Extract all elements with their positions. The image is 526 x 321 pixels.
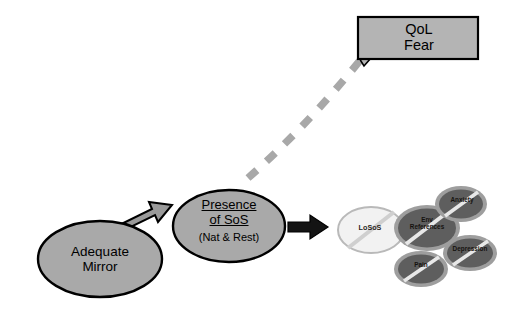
black-block-arrow bbox=[288, 215, 328, 239]
adequate-mirror-ellipse bbox=[38, 221, 162, 297]
consequence-anxiety[interactable] bbox=[435, 186, 487, 222]
diagram-vector-layer bbox=[0, 0, 526, 321]
presence-of-sos-ellipse bbox=[173, 190, 285, 262]
callout-box-rect bbox=[358, 17, 478, 59]
dashed-curve-path bbox=[248, 58, 362, 178]
connector-sos-to-consequences bbox=[288, 215, 328, 239]
consequence-losos[interactable] bbox=[338, 207, 404, 253]
diagram-canvas: Adequate Mirror Presence of SoS (Nat & R… bbox=[0, 0, 526, 321]
qol-fear-callout[interactable] bbox=[358, 17, 478, 66]
consequence-pain[interactable] bbox=[394, 251, 448, 287]
consequence-depression[interactable] bbox=[443, 235, 497, 271]
node-presence-of-sos[interactable] bbox=[173, 190, 285, 262]
connector-sos-to-qol-fear bbox=[248, 58, 362, 178]
node-adequate-mirror[interactable] bbox=[38, 221, 162, 297]
consequence-cluster bbox=[338, 186, 497, 287]
